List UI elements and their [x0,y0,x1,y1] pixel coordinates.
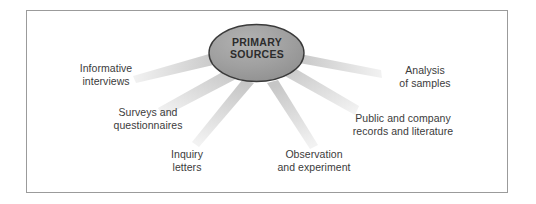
label-analysis-of-samples: Analysis of samples [382,64,468,89]
label-inquiry-letters-line-1: Inquiry [152,148,222,161]
label-observation-and-experiment-line-2: and experiment [259,161,369,174]
diagram-canvas: PRIMARY SOURCES Informative interviews S… [0,0,536,204]
spoke-analysis-of-samples [295,53,382,78]
label-surveys-and-questionnaires-line-2: questionnaires [98,119,198,132]
label-analysis-of-samples-line-1: Analysis [382,64,468,77]
label-inquiry-letters: Inquiry letters [152,148,222,173]
label-analysis-of-samples-line-2: of samples [382,77,468,90]
label-surveys-and-questionnaires: Surveys and questionnaires [98,106,198,131]
label-public-and-company-records: Public and company records and literatur… [333,112,473,137]
label-informative-interviews-line-2: interviews [66,75,146,88]
primary-sources-hub-label: PRIMARY SOURCES [209,36,305,60]
label-public-and-company-records-line-1: Public and company [333,112,473,125]
label-informative-interviews-line-1: Informative [66,62,146,75]
label-observation-and-experiment-line-1: Observation [259,148,369,161]
label-public-and-company-records-line-2: records and literature [333,125,473,138]
hub-label-line-2: SOURCES [209,48,305,60]
label-informative-interviews: Informative interviews [66,62,146,87]
label-surveys-and-questionnaires-line-1: Surveys and [98,106,198,119]
spoke-observation-and-experiment [267,80,318,149]
label-inquiry-letters-line-2: letters [152,161,222,174]
label-observation-and-experiment: Observation and experiment [259,148,369,173]
hub-label-line-1: PRIMARY [209,36,305,48]
diagram-graphics [0,0,536,204]
